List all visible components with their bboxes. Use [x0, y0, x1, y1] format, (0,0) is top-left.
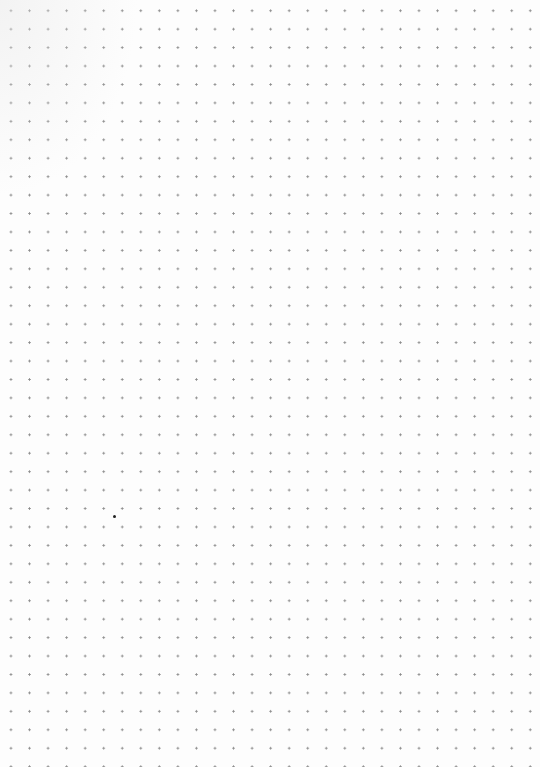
dot-grid-page: [0, 0, 540, 767]
paper-shading: [0, 0, 540, 767]
pen-mark: [113, 515, 116, 518]
